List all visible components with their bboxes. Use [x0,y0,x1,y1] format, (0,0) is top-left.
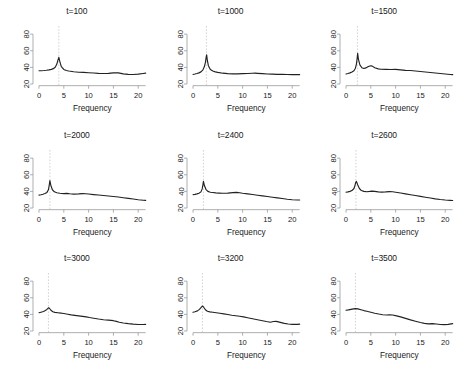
x-tick-label: 20 [441,338,449,347]
y-tick-label: 60 [330,170,339,178]
spectrum-curve [346,53,453,74]
x-tick-label: 20 [134,214,142,223]
y-tick-label: 20 [22,327,31,335]
y-tick-label: 20 [330,203,339,211]
y-tick-label: 40 [176,63,185,71]
x-tick-label: 15 [263,214,271,223]
spectrum-curve [39,57,146,74]
x-tick-label: 10 [392,91,400,100]
plot-area: 2040608005101520Frequency [0,0,154,124]
spectrum-curve [193,306,300,324]
plot-area: 2040608005101520Frequency [307,124,461,248]
x-tick-label: 20 [134,91,142,100]
x-tick-label: 5 [215,338,219,347]
spectrum-panel: t=35002040608005101520Frequency [307,247,461,371]
x-tick-label: 10 [392,338,400,347]
x-tick-label: 10 [238,338,246,347]
x-tick-label: 5 [215,214,219,223]
spectral-density-figure: t=1002040608005101520Frequencyt=10002040… [0,0,461,371]
y-tick-label: 80 [330,30,339,38]
x-tick-label: 10 [84,91,92,100]
plot-area: 2040608005101520Frequency [154,124,308,248]
y-tick-label: 60 [22,47,31,55]
y-tick-label: 40 [22,63,31,71]
x-tick-label: 5 [62,214,66,223]
y-tick-label: 80 [330,277,339,285]
spectrum-panel: t=20002040608005101520Frequency [0,124,154,248]
x-tick-label: 0 [37,338,41,347]
spectrum-curve [39,180,146,200]
y-tick-label: 80 [176,30,185,38]
x-tick-label: 5 [369,214,373,223]
x-tick-label: 15 [417,214,425,223]
x-tick-label: 20 [134,338,142,347]
x-tick-label: 0 [344,338,348,347]
spectrum-curve [193,181,300,200]
y-tick-label: 20 [22,203,31,211]
x-tick-label: 5 [62,91,66,100]
x-tick-label: 15 [109,338,117,347]
y-tick-label: 60 [330,294,339,302]
y-tick-label: 20 [176,80,185,88]
x-tick-label: 10 [84,338,92,347]
y-tick-label: 40 [330,310,339,318]
y-tick-label: 40 [22,310,31,318]
x-tick-label: 5 [62,338,66,347]
y-tick-label: 60 [176,170,185,178]
y-tick-label: 80 [22,277,31,285]
x-axis-title: Frequency [380,227,420,236]
x-tick-label: 15 [417,338,425,347]
x-tick-label: 5 [369,338,373,347]
spectrum-panel: t=24002040608005101520Frequency [154,124,308,248]
x-axis-title: Frequency [227,104,267,113]
spectrum-panel: t=32002040608005101520Frequency [154,247,308,371]
y-tick-label: 40 [22,187,31,195]
x-tick-label: 0 [191,214,195,223]
x-tick-label: 20 [441,91,449,100]
y-tick-label: 40 [176,187,185,195]
spectrum-panel: t=26002040608005101520Frequency [307,124,461,248]
x-tick-label: 20 [441,214,449,223]
y-tick-label: 60 [176,47,185,55]
x-tick-label: 20 [288,214,296,223]
spectrum-panel: t=15002040608005101520Frequency [307,0,461,124]
y-tick-label: 80 [22,30,31,38]
plot-area: 2040608005101520Frequency [154,0,308,124]
plot-area: 2040608005101520Frequency [0,124,154,248]
x-tick-label: 10 [392,214,400,223]
y-tick-label: 40 [176,310,185,318]
y-tick-label: 20 [176,203,185,211]
y-tick-label: 20 [176,327,185,335]
spectrum-panel: t=10002040608005101520Frequency [154,0,308,124]
x-axis-title: Frequency [227,351,267,360]
y-tick-label: 60 [22,170,31,178]
y-tick-label: 40 [330,187,339,195]
y-tick-label: 80 [22,154,31,162]
x-tick-label: 15 [263,338,271,347]
y-tick-label: 20 [22,80,31,88]
spectrum-panel: t=30002040608005101520Frequency [0,247,154,371]
x-axis-title: Frequency [73,104,113,113]
plot-area: 2040608005101520Frequency [154,247,308,371]
x-axis-title: Frequency [227,227,267,236]
x-tick-label: 5 [369,91,373,100]
y-tick-label: 20 [330,327,339,335]
x-tick-label: 0 [344,214,348,223]
x-axis-title: Frequency [73,227,113,236]
x-tick-label: 5 [215,91,219,100]
y-tick-label: 60 [330,47,339,55]
y-tick-label: 20 [330,80,339,88]
x-tick-label: 0 [191,91,195,100]
x-tick-label: 15 [417,91,425,100]
spectrum-curve [39,308,146,325]
plot-area: 2040608005101520Frequency [307,0,461,124]
spectrum-curve [346,309,453,325]
plot-area: 2040608005101520Frequency [307,247,461,371]
x-tick-label: 10 [238,214,246,223]
x-tick-label: 10 [84,214,92,223]
x-axis-title: Frequency [380,104,420,113]
plot-area: 2040608005101520Frequency [0,247,154,371]
x-tick-label: 0 [344,91,348,100]
x-tick-label: 0 [191,338,195,347]
x-tick-label: 15 [109,91,117,100]
